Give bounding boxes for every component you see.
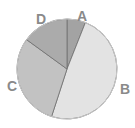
label-b: B	[120, 81, 130, 97]
label-a: A	[77, 8, 87, 24]
label-d: D	[36, 11, 46, 27]
label-c: C	[7, 78, 17, 94]
pie-chart: A B C D	[0, 0, 135, 128]
